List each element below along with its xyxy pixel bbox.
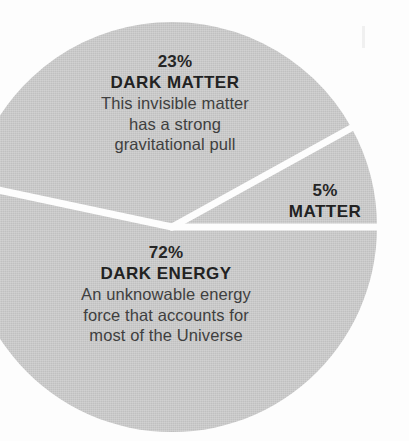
dark-energy-desc-line-3: most of the Universe — [48, 325, 284, 345]
dark-matter-desc-line-1: This invisible matter — [84, 93, 266, 113]
pie-chart-figure: 23% DARK MATTER This invisible matter ha… — [0, 0, 409, 441]
matter-percent: 5% — [266, 181, 384, 202]
pie-label-dark-matter: 23% DARK MATTER This invisible matter ha… — [84, 52, 266, 154]
matter-name: MATTER — [266, 202, 384, 223]
dark-energy-desc-line-1: An unknowable energy — [48, 284, 284, 304]
dark-energy-percent: 72% — [48, 243, 284, 264]
dark-energy-desc-line-2: force that accounts for — [48, 305, 284, 325]
scan-artifact — [362, 26, 365, 48]
dark-matter-desc-line-2: has a strong — [84, 114, 266, 134]
dark-matter-desc-line-3: gravitational pull — [84, 134, 266, 154]
pie-label-dark-energy: 72% DARK ENERGY An unknowable energy for… — [48, 243, 284, 345]
pie-label-matter: 5% MATTER — [266, 181, 384, 222]
dark-matter-percent: 23% — [84, 52, 266, 73]
dark-matter-name: DARK MATTER — [84, 73, 266, 94]
dark-energy-name: DARK ENERGY — [48, 264, 284, 285]
